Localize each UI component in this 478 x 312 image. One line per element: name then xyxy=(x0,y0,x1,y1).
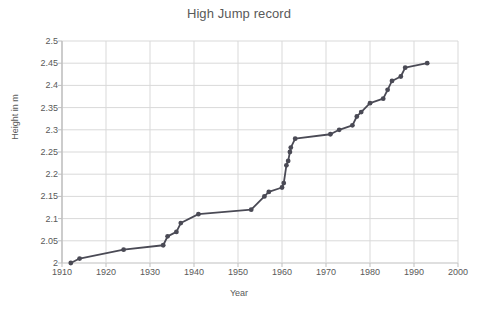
x-tick-label: 1960 xyxy=(272,267,292,277)
y-tick-label: 2.45 xyxy=(40,58,58,68)
y-tick-label: 2.1 xyxy=(45,214,58,224)
chart-container: High Jump record Height in m 22.052.12.1… xyxy=(0,0,478,312)
x-tick-label: 1980 xyxy=(360,267,380,277)
x-tick-label: 1940 xyxy=(184,267,204,277)
x-tick-label: 1930 xyxy=(140,267,160,277)
x-tick-label: 1910 xyxy=(52,267,72,277)
chart-title: High Jump record xyxy=(0,6,478,21)
x-tick-label: 1950 xyxy=(228,267,248,277)
y-tick-label: 2.4 xyxy=(45,80,58,90)
x-tick-label: 1990 xyxy=(404,267,424,277)
y-tick-label: 2.35 xyxy=(40,103,58,113)
y-tick-label: 2.05 xyxy=(40,236,58,246)
chart-svg xyxy=(62,41,458,263)
x-tick-label: 1970 xyxy=(316,267,336,277)
plot-area: 22.052.12.152.22.252.32.352.42.452.5 191… xyxy=(62,41,458,263)
x-axis-title: Year xyxy=(0,288,478,298)
x-tick-label: 2000 xyxy=(448,267,468,277)
y-axis-title: Height in m xyxy=(10,67,20,167)
y-tick-label: 2.3 xyxy=(45,125,58,135)
y-tick-label: 2.15 xyxy=(40,191,58,201)
y-tick-label: 2.2 xyxy=(45,169,58,179)
y-tick-label: 2.25 xyxy=(40,147,58,157)
y-tick-label: 2.5 xyxy=(45,36,58,46)
x-tick-label: 1920 xyxy=(96,267,116,277)
